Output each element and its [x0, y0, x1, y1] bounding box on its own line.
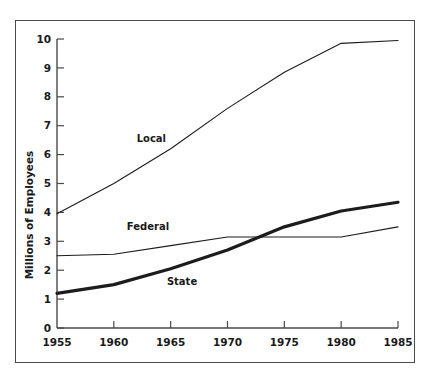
line-chart: 012345678910 195519601965197019751980198… — [0, 0, 429, 379]
y-tick-label: 0 — [44, 322, 51, 334]
x-tick-label: 1980 — [327, 336, 356, 348]
y-tick-label: 7 — [44, 119, 51, 131]
series-label-local: Local — [137, 133, 166, 144]
x-tick-label: 1970 — [213, 336, 242, 348]
x-tick-label: 1960 — [99, 336, 128, 348]
y-tick-label: 5 — [44, 177, 51, 189]
x-tick-label: 1975 — [270, 336, 299, 348]
series-line-local — [57, 40, 398, 213]
y-tick-label: 4 — [44, 206, 51, 218]
y-tick-label: 3 — [44, 235, 51, 247]
y-axis-title: Millions of Employees — [23, 151, 35, 280]
x-tick-label: 1965 — [156, 336, 185, 348]
x-tick-label: 1985 — [383, 336, 412, 348]
series-lines — [57, 40, 398, 293]
y-tick-label: 9 — [44, 62, 51, 74]
series-label-federal: Federal — [127, 221, 169, 232]
y-tick-label: 2 — [44, 264, 51, 276]
series-line-state — [57, 202, 398, 293]
x-axis-ticks: 1955196019651970197519801985 — [42, 321, 412, 348]
x-tick-label: 1955 — [42, 336, 71, 348]
y-tick-label: 10 — [36, 33, 51, 45]
chart-figure: 012345678910 195519601965197019751980198… — [0, 0, 429, 379]
y-tick-label: 6 — [44, 148, 51, 160]
series-label-state: State — [167, 276, 198, 287]
y-tick-label: 8 — [44, 90, 51, 102]
y-tick-label: 1 — [44, 293, 51, 305]
y-axis-ticks: 012345678910 — [36, 33, 64, 334]
